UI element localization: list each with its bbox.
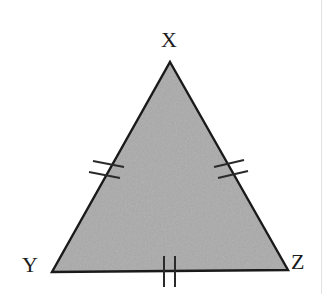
figure-canvas: X Y Z [0,0,328,294]
vertex-label-z: Z [291,251,304,273]
vertex-label-y: Y [22,254,38,276]
triangle-fill-texture [40,50,300,285]
page-edge-line [321,0,322,294]
vertex-label-x: X [161,29,177,51]
